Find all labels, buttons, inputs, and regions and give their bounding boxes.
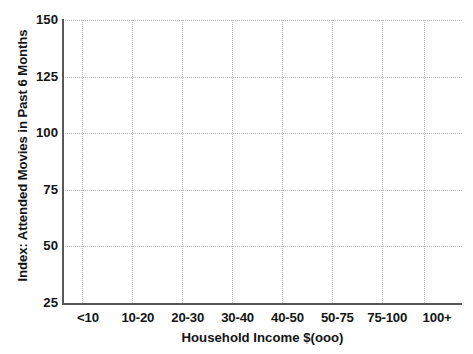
- x-axis-line: [62, 303, 462, 305]
- gridline-vertical: [282, 20, 283, 303]
- x-axis-tick-label: 40-50: [263, 307, 313, 329]
- gridline-horizontal: [63, 133, 462, 134]
- gridline-horizontal: [63, 190, 462, 191]
- y-axis-tick-label: 75: [18, 183, 58, 196]
- x-axis-tick-label: <10: [63, 307, 113, 329]
- x-axis-tick-label: 30-40: [213, 307, 263, 329]
- gridline-vertical: [82, 20, 83, 303]
- y-axis-tick-label: 100: [18, 126, 58, 139]
- x-axis-tick-label: 20-30: [163, 307, 213, 329]
- data-series-layer: [63, 20, 462, 303]
- y-axis-tick-label: 125: [18, 70, 58, 83]
- y-axis-tick-label: 50: [18, 239, 58, 252]
- gridline-vertical: [332, 20, 333, 303]
- x-axis-tick-label: 100+: [412, 307, 462, 329]
- x-axis-tick-label-group: <10 10-20 20-30 30-40 40-50 50-75 75-100…: [63, 307, 462, 329]
- x-axis-tick-label: 10-20: [113, 307, 163, 329]
- y-axis-line: [62, 19, 64, 304]
- gridline-horizontal: [63, 77, 462, 78]
- y-axis-tick-label: 150: [18, 13, 58, 26]
- x-axis-tick-label: 50-75: [312, 307, 362, 329]
- gridline-vertical: [182, 20, 183, 303]
- y-axis-tick-label-group: 150 125 100 75 50 25: [18, 0, 58, 354]
- x-axis-tick-label: 75-100: [362, 307, 412, 329]
- chart-figure: Index: Attended Movies in Past 6 Months …: [0, 0, 473, 354]
- plot-area: [63, 20, 462, 303]
- x-axis-title: Household Income $(ooo): [63, 330, 462, 345]
- gridline-vertical: [232, 20, 233, 303]
- y-axis-tick-label: 25: [18, 296, 58, 309]
- gridline-vertical: [424, 20, 425, 303]
- gridline-horizontal: [63, 246, 462, 247]
- gridline-vertical: [132, 20, 133, 303]
- gridline-vertical: [382, 20, 383, 303]
- gridline-horizontal: [63, 20, 462, 21]
